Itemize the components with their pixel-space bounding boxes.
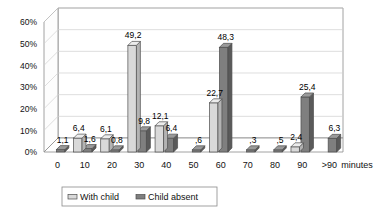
data-label-child-absent: 9,8 [138, 116, 150, 126]
legend-swatch-with-child [68, 195, 77, 200]
y-axis-tick-label: 0% [25, 147, 38, 157]
bar-child-absent [56, 150, 65, 152]
bar-child-absent-side [309, 93, 313, 152]
x-axis-tick-label: 50 [188, 160, 198, 170]
y-axis-tick-label: 60% [20, 17, 37, 27]
data-label-with-child: 12,1 [152, 111, 169, 121]
bar-with-child [291, 147, 300, 152]
legend-label-with-child: With child [80, 192, 119, 202]
x-axis-tick-label: 90 [297, 160, 307, 170]
bar-with-child-side [218, 99, 222, 152]
data-label-child-absent: 6,4 [165, 123, 177, 133]
bar-child-absent-side [228, 43, 232, 152]
x-axis-tick-label: 30 [134, 160, 144, 170]
x-axis-tick-label: 40 [161, 160, 171, 170]
bar-with-child [128, 45, 136, 152]
data-label-child-absent: 6,3 [328, 123, 340, 133]
x-axis-tick-label: 0 [55, 160, 60, 170]
y-axis-tick-label: 20% [20, 104, 37, 114]
x-axis-tick-label: 20 [107, 160, 117, 170]
bar-chart: 0%10%20%30%40%50%60%1,106,41,6106,10,820… [0, 0, 374, 219]
bar-with-child [101, 139, 110, 152]
data-label-child-absent: ,3 [249, 135, 256, 145]
y-axis-tick-label: 10% [20, 126, 37, 136]
x-axis-tick-label: >90 [322, 160, 337, 170]
x-axis-title: minutes [341, 160, 373, 170]
legend-label-child-absent: Child absent [148, 192, 199, 202]
data-label-child-absent: ,6 [195, 135, 202, 145]
y-axis-tick-label: 50% [20, 39, 37, 49]
y-axis-tick-label: 40% [20, 61, 37, 71]
data-label-child-absent: 25,4 [299, 82, 316, 92]
data-label-with-child: 2,4 [290, 132, 302, 142]
data-label-child-absent: 0,8 [111, 135, 123, 145]
bar-with-child [209, 103, 218, 152]
data-label-child-absent: 1,6 [84, 134, 96, 144]
bar-with-child-side [136, 41, 140, 152]
bar-with-child [74, 138, 83, 152]
data-label-with-child: 22,7 [206, 88, 223, 98]
data-label-with-child: 6,4 [73, 123, 85, 133]
chart-canvas: 0%10%20%30%40%50%60%1,106,41,6106,10,820… [0, 0, 374, 219]
legend-swatch-child-absent [136, 195, 145, 200]
data-label-child-absent: ,5 [276, 135, 283, 145]
x-axis-tick-label: 70 [243, 160, 253, 170]
data-label-with-child: 6,1 [100, 124, 112, 134]
x-axis-tick-label: 10 [80, 160, 90, 170]
data-label-child-absent: 1,1 [57, 135, 69, 145]
x-axis-tick-label: 60 [216, 160, 226, 170]
data-label-with-child: 49,2 [125, 30, 142, 40]
x-axis-tick-label: 80 [270, 160, 280, 170]
data-label-child-absent: 48,3 [217, 32, 234, 42]
bar-with-child [155, 126, 164, 152]
y-axis-tick-label: 30% [20, 82, 37, 92]
bar-child-absent [328, 138, 337, 152]
